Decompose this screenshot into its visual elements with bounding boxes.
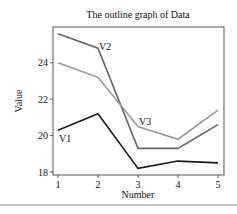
x-axis: 12345 bbox=[56, 175, 221, 190]
y-tick-label: 24 bbox=[38, 57, 48, 68]
series-line-v1 bbox=[58, 114, 218, 169]
series-label-v1: V1 bbox=[59, 133, 71, 144]
x-tick-label: 5 bbox=[216, 179, 221, 190]
series-line-v3 bbox=[58, 63, 218, 139]
series-label-v2: V2 bbox=[99, 41, 111, 52]
chart-title: The outline graph of Data bbox=[86, 9, 190, 20]
y-tick-label: 20 bbox=[38, 130, 48, 141]
plot-frame bbox=[53, 27, 224, 175]
x-tick-label: 4 bbox=[176, 179, 181, 190]
y-axis-label: Value bbox=[13, 89, 24, 112]
x-tick-label: 1 bbox=[56, 179, 61, 190]
series-label-v3: V3 bbox=[139, 116, 151, 127]
y-axis: 18202224 bbox=[38, 57, 53, 177]
line-chart: The outline graph of Data 18202224 12345… bbox=[0, 0, 237, 214]
series-line-v2 bbox=[58, 34, 218, 149]
y-tick-label: 22 bbox=[38, 94, 48, 105]
x-tick-label: 2 bbox=[96, 179, 101, 190]
x-axis-label: Number bbox=[122, 189, 155, 200]
series-group: V1V2V3 bbox=[58, 34, 218, 169]
y-tick-label: 18 bbox=[38, 167, 48, 178]
